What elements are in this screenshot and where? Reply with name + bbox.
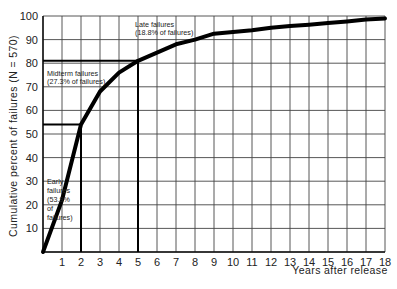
annotation-text: of [47, 204, 53, 213]
annotation-text: (27.3% of failures) [47, 77, 105, 86]
x-tick-label: 7 [173, 256, 179, 268]
x-tick-label: 2 [78, 256, 84, 268]
annotation-text: Early [47, 177, 64, 186]
annotation-text: failures) [47, 213, 73, 222]
reference-lines [43, 61, 138, 252]
annotation-text: failures [47, 186, 71, 195]
x-tick-label: 6 [154, 256, 160, 268]
annotation-early-failures: Early failures (53.9% of failures) [47, 177, 73, 222]
grid-lines [43, 16, 385, 252]
annotation-midterm-failures: Midterm failures (27.3% of failures) [47, 69, 105, 86]
y-tick-label: 90 [26, 34, 38, 46]
x-tick-label: 1 [59, 256, 65, 268]
x-tick-label: 4 [116, 256, 122, 268]
x-tick-label: 11 [246, 256, 257, 268]
annotation-text: (53.9% [47, 195, 70, 204]
x-tick-label: 5 [135, 256, 141, 268]
y-axis-ticks: 102030405060708090100 [20, 10, 38, 234]
y-tick-label: 60 [26, 104, 38, 116]
annotation-late-failures: Late failures (18.8% of failures) [135, 20, 193, 37]
y-tick-label: 20 [26, 199, 38, 211]
x-tick-label: 8 [192, 256, 198, 268]
x-tick-label: 9 [211, 256, 217, 268]
x-axis-label: Years after release [292, 264, 387, 276]
y-tick-label: 10 [26, 222, 38, 234]
y-tick-label: 100 [20, 10, 38, 22]
annotation-text: (18.8% of failures) [135, 28, 193, 37]
cumulative-failures-chart: 102030405060708090100 123456789101112131… [0, 0, 397, 289]
y-tick-label: 40 [26, 152, 38, 164]
x-tick-label: 3 [97, 256, 103, 268]
y-tick-label: 50 [26, 128, 38, 140]
y-tick-label: 70 [26, 81, 38, 93]
y-tick-label: 80 [26, 57, 38, 69]
y-tick-label: 30 [26, 175, 38, 187]
x-tick-label: 10 [227, 256, 239, 268]
y-axis-label: Cumulative percent of failures (N = 570) [7, 35, 19, 237]
x-tick-label: 12 [265, 256, 277, 268]
